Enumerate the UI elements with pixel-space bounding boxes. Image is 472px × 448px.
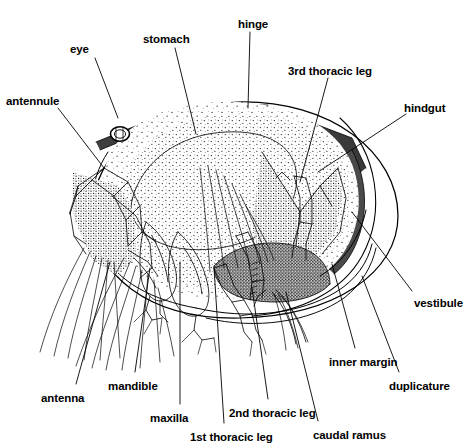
label-caudal-ramus: caudal ramus: [313, 430, 386, 442]
label-inner-margin: inner margin: [329, 357, 397, 369]
label-stomach: stomach: [143, 34, 190, 46]
label-antennule: antennule: [6, 96, 59, 108]
label-mandible: mandible: [108, 381, 158, 393]
label-hinge: hinge: [238, 19, 268, 31]
label-eye: eye: [70, 44, 89, 56]
label-antenna: antenna: [41, 393, 84, 405]
label-hindgut: hindgut: [404, 103, 445, 115]
label-maxilla: maxilla: [150, 413, 188, 425]
eye: [111, 127, 130, 141]
label-1st-thoracic-leg: 1st thoracic leg: [190, 432, 273, 444]
label-2nd-thoracic-leg: 2nd thoracic leg: [229, 408, 316, 420]
anatomy-figure: eyestomachhinge3rd thoracic legantennule…: [0, 0, 472, 448]
label-3rd-thoracic-leg: 3rd thoracic leg: [288, 66, 372, 78]
label-duplicature: duplicature: [389, 381, 450, 393]
label-vestibule: vestibule: [414, 298, 463, 310]
